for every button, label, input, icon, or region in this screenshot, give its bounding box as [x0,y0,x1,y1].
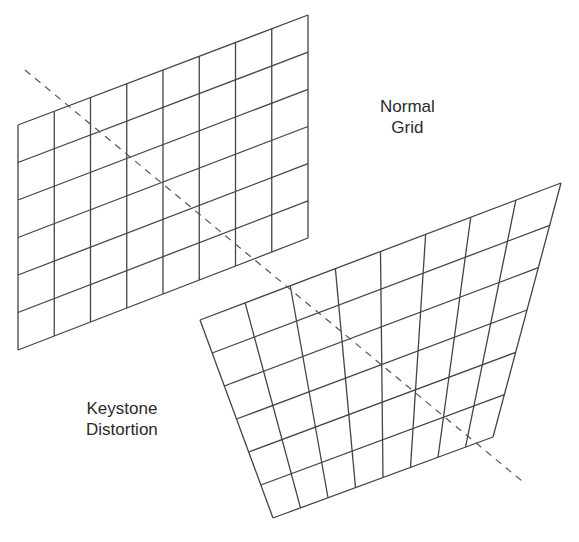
keystone-diagram: Normal Grid Keystone Distortion [0,0,579,542]
keystone-label-line1: Keystone [86,398,158,419]
normal-grid-label-line1: Normal [380,96,435,117]
keystone-label-line2: Distortion [86,419,158,440]
normal-grid [18,15,308,350]
normal-grid-label: Normal Grid [380,96,435,138]
grid-illustration [0,0,579,542]
keystone-distortion-label: Keystone Distortion [86,398,158,440]
normal-grid-label-line2: Grid [380,117,435,138]
